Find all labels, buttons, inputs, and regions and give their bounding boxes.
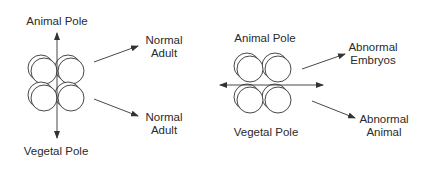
left-embryo-cells bbox=[28, 55, 84, 111]
outcome-line2: Adult bbox=[140, 47, 188, 60]
left-arrow-to-top-outcome bbox=[94, 46, 138, 62]
outcome-line2: Embryos bbox=[344, 54, 402, 67]
right-arrow-to-top-outcome bbox=[302, 54, 345, 69]
right-arrow-to-bottom-outcome bbox=[312, 101, 355, 118]
outcome-line1: Abnormal bbox=[355, 113, 413, 126]
left-arrow-to-bottom-outcome bbox=[94, 99, 138, 116]
outcome-line2: Adult bbox=[140, 124, 188, 137]
left-bottom-outcome-label: Normal Adult bbox=[140, 111, 188, 137]
right-animal-pole-label: Animal Pole bbox=[230, 32, 300, 45]
right-bottom-outcome-label: Abnormal Animal bbox=[355, 113, 413, 139]
left-top-outcome-label: Normal Adult bbox=[140, 34, 188, 60]
right-embryo-cells bbox=[234, 53, 291, 113]
left-animal-pole-label: Animal Pole bbox=[22, 15, 92, 28]
right-top-outcome-label: Abnormal Embryos bbox=[344, 41, 402, 67]
outcome-line2: Animal bbox=[355, 126, 413, 139]
outcome-line1: Normal bbox=[140, 111, 188, 124]
outcome-line1: Abnormal bbox=[344, 41, 402, 54]
outcome-line1: Normal bbox=[140, 34, 188, 47]
left-vegetal-pole-label: Vegetal Pole bbox=[20, 145, 92, 158]
right-vegetal-pole-label: Vegetal Pole bbox=[229, 126, 303, 139]
